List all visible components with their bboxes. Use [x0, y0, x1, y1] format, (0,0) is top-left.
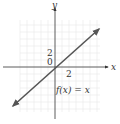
- function-label: f(x) = x: [55, 85, 90, 95]
- x-tick-label: 2: [66, 69, 72, 79]
- y-axis-label: y: [51, 0, 58, 10]
- x-axis-label: x: [111, 62, 116, 72]
- grid: [20, 20, 100, 112]
- function-graph: y x 2 0 2 f(x) = x: [0, 0, 120, 124]
- origin-label: 0: [47, 57, 53, 67]
